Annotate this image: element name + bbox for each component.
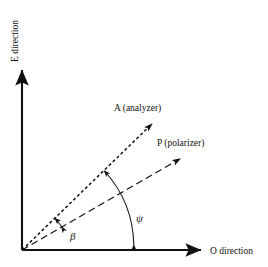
figure-container: E direction O direction A (analyzer) P (… xyxy=(0,0,268,267)
angle-beta-arc xyxy=(55,219,62,228)
vector-polarizer-line xyxy=(22,159,179,250)
axis-label-o-direction: O direction xyxy=(210,246,253,256)
angle-label-psi: ψ xyxy=(136,212,143,224)
axis-vertical: E direction xyxy=(10,20,22,250)
angle-label-beta: β xyxy=(69,230,76,242)
vector-polarizer: P (polarizer) xyxy=(22,138,204,250)
angle-beta: β xyxy=(55,219,76,243)
angle-psi-arc xyxy=(105,171,134,245)
vector-label-analyzer: A (analyzer) xyxy=(114,103,161,114)
axis-label-e-direction: E direction xyxy=(10,20,20,62)
axis-horizontal: O direction xyxy=(22,246,253,256)
diagram-canvas: E direction O direction A (analyzer) P (… xyxy=(0,0,268,267)
vector-analyzer: A (analyzer) xyxy=(22,103,161,250)
angle-psi: ψ xyxy=(105,171,144,245)
vector-label-polarizer: P (polarizer) xyxy=(157,138,204,149)
